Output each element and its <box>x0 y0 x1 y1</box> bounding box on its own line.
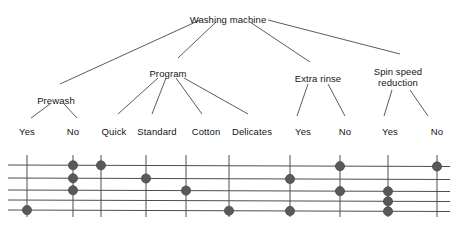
feature-node-rinse: Extra rinse <box>295 73 342 84</box>
leaf-node-prewash-yes: Yes <box>19 126 35 137</box>
matrix-dot-r5-spin-yes[interactable] <box>383 207 392 216</box>
matrix-dot-group <box>22 161 441 216</box>
matrix-dot-r3-prog-cotton[interactable] <box>181 186 190 195</box>
matrix-dot-r1-prewash-no[interactable] <box>68 161 77 170</box>
matrix-dot-r5-prog-delicates[interactable] <box>224 206 233 215</box>
tree-edge-7 <box>184 78 248 114</box>
tree-edge-8 <box>31 104 50 118</box>
matrix-dot-r1-prog-quick[interactable] <box>96 161 105 170</box>
matrix-dot-r1-spin-no[interactable] <box>432 162 441 171</box>
tree-edge-13 <box>410 90 428 116</box>
matrix-dot-r3-rinse-no[interactable] <box>335 187 344 196</box>
matrix-dot-r3-spin-yes[interactable] <box>383 187 392 196</box>
leaf-node-spin-yes: Yes <box>382 126 398 137</box>
matrix-dot-r2-prog-standard[interactable] <box>141 174 150 183</box>
tree-edge-3 <box>268 20 400 54</box>
matrix-dot-r1-rinse-no[interactable] <box>335 162 344 171</box>
matrix-dot-r3-prewash-no[interactable] <box>68 186 77 195</box>
feature-node-spin-line2: reduction <box>378 77 418 88</box>
matrix-dot-r2-rinse-yes[interactable] <box>285 174 294 183</box>
matrix-dot-r4-spin-yes[interactable] <box>383 197 392 206</box>
diagram-canvas: Washing machine PrewashProgramExtra rins… <box>0 0 457 234</box>
leaf-node-prog-quick: Quick <box>102 126 127 137</box>
tree-edge-12 <box>384 90 392 116</box>
tree-edge-9 <box>64 104 77 118</box>
leaf-node-spin-no: No <box>431 126 443 137</box>
tree-edge-5 <box>152 78 166 114</box>
feature-node-program: Program <box>149 68 186 79</box>
feature-node-spin-line1: Spin speed <box>374 66 423 77</box>
tree-edge-10 <box>297 84 308 116</box>
leaf-node-rinse-no: No <box>339 126 351 137</box>
tree-edge-2 <box>250 22 310 62</box>
root-node-washing-machine: Washing machine <box>190 14 267 25</box>
matrix-dot-r2-prewash-no[interactable] <box>68 174 77 183</box>
leaf-node-prog-delicates: Delicates <box>232 126 272 137</box>
matrix-dot-r5-rinse-yes[interactable] <box>285 206 294 215</box>
feature-node-prewash: Prewash <box>37 95 75 106</box>
matrix-dot-r5-prewash-yes[interactable] <box>22 205 31 214</box>
leaf-node-rinse-yes: Yes <box>295 126 311 137</box>
diagram-vector-layer <box>0 0 457 234</box>
tree-edge-4 <box>118 78 158 114</box>
leaf-node-prog-standard: Standard <box>137 126 176 137</box>
tree-edge-6 <box>176 78 202 114</box>
leaf-node-prog-cotton: Cotton <box>192 126 221 137</box>
leaf-node-prewash-no: No <box>67 126 79 137</box>
feature-node-spin: Spin speedreduction <box>363 66 433 88</box>
tree-edge-11 <box>328 84 345 116</box>
